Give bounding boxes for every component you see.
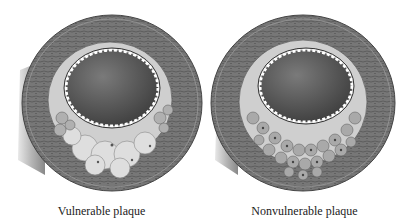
vulnerable-plaque-panel: Vulnerable plaque [0, 0, 203, 224]
caption-vulnerable: Vulnerable plaque [0, 204, 203, 219]
nonvulnerable-plaque-panel: Nonvulnerable plaque [203, 0, 406, 224]
lumen [66, 50, 158, 126]
lumen [260, 50, 352, 122]
caption-nonvulnerable: Nonvulnerable plaque [203, 204, 406, 219]
vulnerable-plaque-illustration [0, 0, 203, 224]
nonvulnerable-plaque-illustration [203, 0, 406, 224]
